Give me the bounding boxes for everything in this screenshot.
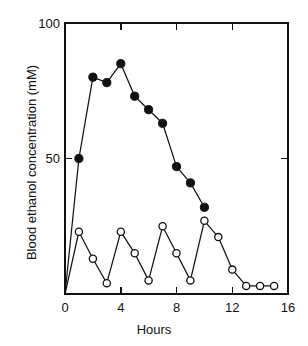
x-tick-label-8: 8 <box>165 301 189 314</box>
y-axis-label: Blood ethanol concentration (mM) <box>24 53 39 273</box>
x-tick-label-16: 16 <box>276 301 300 314</box>
x-tick-label-0: 0 <box>53 301 77 314</box>
open-circle-markers <box>75 217 277 289</box>
x-tick-label-12: 12 <box>220 301 244 314</box>
open-circle-series <box>65 217 278 294</box>
filled-circle-series <box>65 60 208 294</box>
filled-circle-markers <box>75 60 209 212</box>
y-tick-label-100: 100 <box>20 17 60 30</box>
figure: 100 50 0 4 8 12 16 Blood ethanol concent… <box>0 0 308 346</box>
ethanol-concentration-chart <box>0 0 308 346</box>
x-tick-label-4: 4 <box>109 301 133 314</box>
caption-sliver <box>18 339 290 346</box>
x-axis-label: Hours <box>0 322 308 337</box>
y-axis-ticks <box>65 23 288 159</box>
